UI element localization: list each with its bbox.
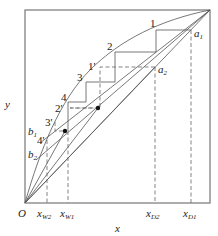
feed-point-2	[63, 129, 67, 133]
tick-xd2: xD2	[145, 207, 160, 221]
mccabe-thiele-diagram: 1 2 1' 3 4 2' 3' 4' a1 a2 b1 b2 y x O xW…	[0, 0, 218, 236]
point-b1: b1	[28, 125, 37, 139]
stage-steps-1	[68, 30, 191, 131]
stripping-line-2	[25, 67, 155, 203]
stage-label-2: 2	[107, 40, 113, 52]
x-axis-label: x	[114, 222, 120, 234]
stage-label-3p: 3'	[45, 116, 53, 128]
y-axis-label: y	[4, 98, 10, 110]
stage-label-3: 3	[77, 71, 83, 83]
tick-xw2: xW2	[36, 207, 52, 221]
stage-label-1: 1	[150, 17, 156, 29]
tick-xd1: xD1	[182, 207, 196, 221]
feed-point-1	[96, 106, 100, 110]
point-a1: a1	[194, 27, 203, 41]
stage-label-1p: 1'	[88, 60, 96, 72]
origin-label: O	[18, 207, 26, 219]
operating-line-2	[36, 10, 210, 160]
stage-label-4p: 4'	[37, 134, 45, 146]
tick-xw1: xW1	[59, 207, 74, 221]
stage-label-2p: 2'	[55, 102, 63, 114]
point-a2: a2	[158, 63, 168, 77]
point-b2: b2	[28, 148, 38, 162]
